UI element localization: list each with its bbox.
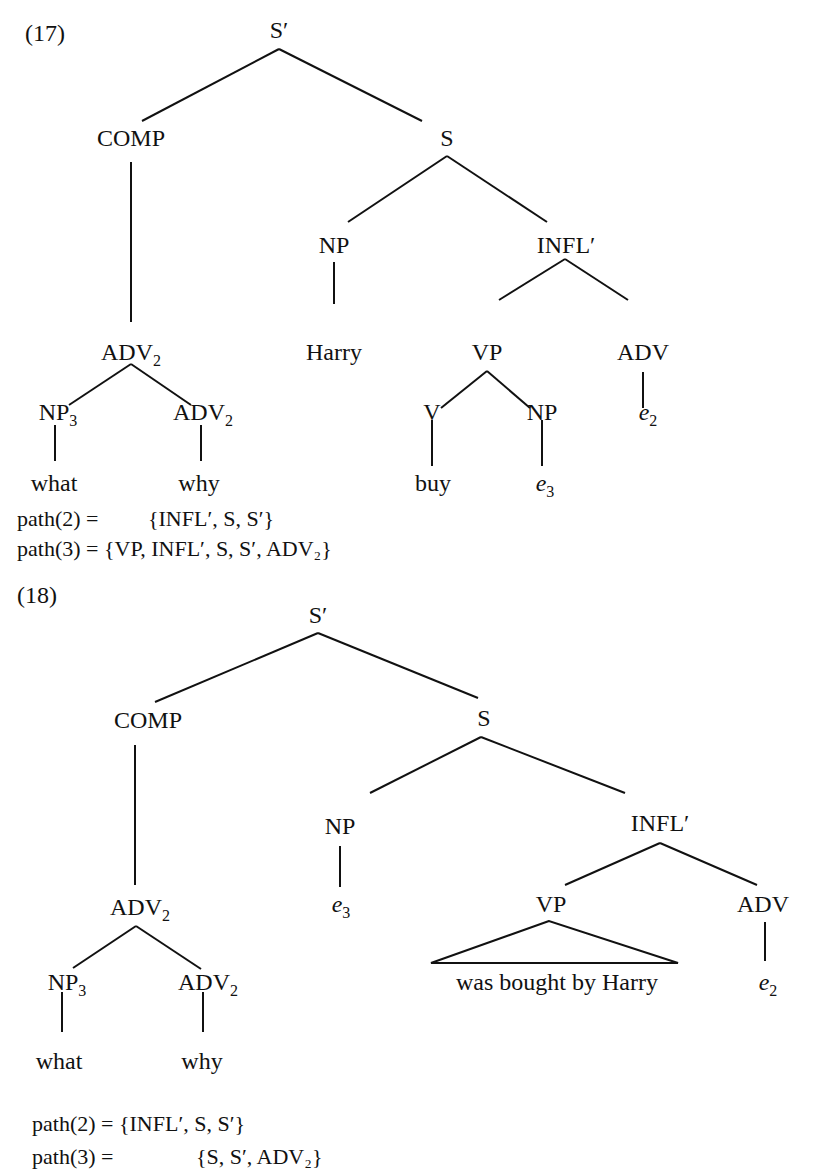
leaf-harry: Harry xyxy=(306,339,362,365)
path-3-line: path(3) = {S, S′, ADV₂} xyxy=(32,1144,322,1169)
node-comp: COMP xyxy=(97,125,165,151)
node-adv: ADV xyxy=(737,891,790,917)
node-v: V xyxy=(423,399,441,425)
vp-yield-was-bought-by-harry: was bought by Harry xyxy=(456,969,658,995)
node-s-bar: S′ xyxy=(270,17,289,43)
path-2-line: path(2) = {INFL′, S, S′} xyxy=(17,506,274,531)
node-np3: NP3 xyxy=(48,969,87,999)
example-number: (17) xyxy=(25,20,65,46)
node-adv2-comp: ADV2 xyxy=(101,339,161,369)
node-np-subject: NP xyxy=(325,813,356,839)
leaf-what: what xyxy=(36,1048,83,1074)
node-adv2-lower: ADV2 xyxy=(173,399,233,429)
example-18: (18) S′ COMP S NP INFL′ ADV2 e3 xyxy=(17,582,790,1169)
leaf-why: why xyxy=(178,470,219,496)
leaf-e2-trace: e2 xyxy=(639,399,658,429)
example-number: (18) xyxy=(17,582,57,608)
tree-17-nodes: S′ COMP S NP INFL′ ADV2 Harry VP ADV NP3… xyxy=(31,17,670,500)
leaf-buy: buy xyxy=(415,470,451,496)
node-infl-bar: INFL′ xyxy=(537,232,596,258)
node-vp: VP xyxy=(472,339,503,365)
leaf-e2-trace: e2 xyxy=(759,969,778,999)
node-s: S xyxy=(477,705,490,731)
leaf-e3-trace: e3 xyxy=(536,470,555,500)
node-adv2-comp: ADV2 xyxy=(110,894,170,924)
tree-18-nodes: S′ COMP S NP INFL′ ADV2 e3 VP ADV was bo… xyxy=(36,602,790,1074)
path-3-line: path(3) = {VP, INFL′, S, S′, ADV₂} xyxy=(17,536,332,561)
path-2-line: path(2) = {INFL′, S, S′} xyxy=(32,1111,245,1136)
node-comp: COMP xyxy=(114,707,182,733)
syntax-tree-diagram: (17) S′ COMP S NP INFL′ ADV2 xyxy=(0,0,822,1176)
leaf-what: what xyxy=(31,470,78,496)
node-adv: ADV xyxy=(617,339,670,365)
leaf-why: why xyxy=(181,1048,222,1074)
leaf-e3-trace: e3 xyxy=(332,891,351,921)
node-adv2-lower: ADV2 xyxy=(178,969,238,999)
example-17: (17) S′ COMP S NP INFL′ ADV2 xyxy=(17,17,670,561)
path-definitions-18: path(2) = {INFL′, S, S′} path(3) = {S, S… xyxy=(32,1111,322,1169)
node-s: S xyxy=(440,125,453,151)
node-np-object: NP xyxy=(527,399,558,425)
node-s-bar: S′ xyxy=(309,602,328,628)
path-definitions-17: path(2) = {INFL′, S, S′} path(3) = {VP, … xyxy=(17,506,332,561)
node-vp: VP xyxy=(536,891,567,917)
node-np-subject: NP xyxy=(319,232,350,258)
node-infl-bar: INFL′ xyxy=(631,810,690,836)
